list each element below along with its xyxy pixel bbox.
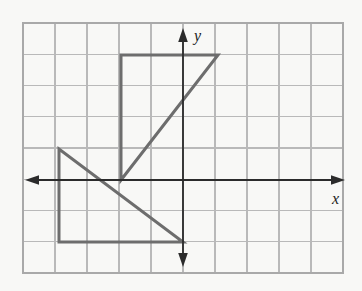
coordinate-plane-figure: y x xyxy=(0,0,362,291)
x-axis-label: x xyxy=(331,190,339,207)
coordinate-plane-svg: y x xyxy=(0,0,362,291)
y-axis-label: y xyxy=(192,27,202,45)
figure-background xyxy=(0,0,362,291)
